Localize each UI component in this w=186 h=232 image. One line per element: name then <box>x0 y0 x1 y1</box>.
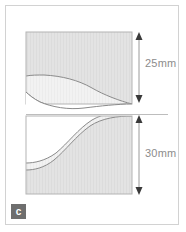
dimension-arrow-30mm <box>136 115 143 195</box>
lower-tissue-block <box>26 111 132 194</box>
lower-tissue-mass <box>26 116 132 194</box>
panel-letter-badge: c <box>11 204 26 219</box>
upper-tissue-block <box>26 32 132 109</box>
dimension-label-30mm: 30mm <box>145 147 176 159</box>
dimension-label-25mm: 25mm <box>145 57 176 69</box>
figure-panel: 25mm 30mm c <box>0 0 186 232</box>
dimension-arrow-25mm <box>136 32 143 103</box>
anatomical-diagram <box>0 0 186 232</box>
